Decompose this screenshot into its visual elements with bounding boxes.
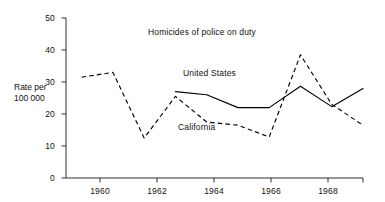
y-tick-label-10: 10 <box>33 141 55 151</box>
series-line-united-states <box>175 86 363 107</box>
x-tick-label-1960: 1960 <box>80 186 120 196</box>
series-label-united-states: United States <box>183 68 236 78</box>
y-tick-label-50: 50 <box>33 13 55 23</box>
y-tick-label-30: 30 <box>33 77 55 87</box>
x-tick-label-1968: 1968 <box>308 186 348 196</box>
y-tick-label-40: 40 <box>33 45 55 55</box>
y-tick-label-0: 0 <box>33 173 55 183</box>
y-axis-title-line2: 100 000 <box>14 93 64 104</box>
chart-title: Homicides of police on duty <box>148 27 256 37</box>
y-tick-label-20: 20 <box>33 109 55 119</box>
series-label-california: California <box>178 122 215 132</box>
x-tick-label-1964: 1964 <box>194 186 234 196</box>
x-tick-label-1966: 1966 <box>251 186 291 196</box>
x-tick-label-1962: 1962 <box>137 186 177 196</box>
x-tick-marks <box>100 178 363 183</box>
chart-figure: Homicides of police on duty Rate per 100… <box>0 0 385 202</box>
